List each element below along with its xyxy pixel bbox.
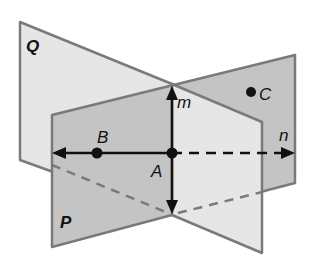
label-point-a: A (150, 162, 162, 181)
label-plane-p: P (60, 213, 72, 232)
point-c (246, 87, 256, 97)
point-b (92, 148, 103, 159)
label-line-m: m (177, 93, 191, 112)
label-plane-q: Q (26, 37, 39, 56)
planes-diagram: Q P m n A B C (0, 0, 314, 277)
label-line-n: n (279, 126, 288, 145)
point-a (167, 148, 178, 159)
label-point-b: B (97, 128, 108, 147)
label-point-c: C (259, 85, 272, 104)
